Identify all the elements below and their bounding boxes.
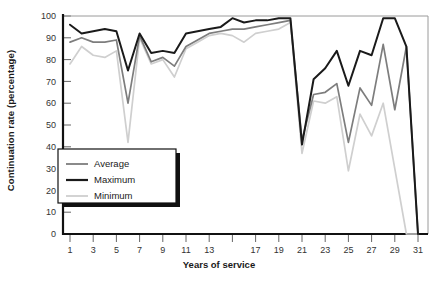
x-tick-label: 29 [390, 245, 400, 255]
x-tick-label: 1 [67, 245, 72, 255]
chart-figure: Continuation rate (percentage) 010203040… [0, 0, 438, 282]
x-tick-label: 13 [204, 245, 214, 255]
x-axis-title: Years of service [0, 259, 438, 270]
y-tick-label: 90 [46, 33, 56, 43]
y-tick-label: 60 [46, 98, 56, 108]
x-tick-label: 5 [114, 245, 119, 255]
y-tick-label: 40 [46, 142, 56, 152]
x-tick-label: 17 [251, 245, 261, 255]
x-tick-label: 25 [343, 245, 353, 255]
legend-label-average: Average [94, 158, 129, 169]
x-tick-label: 21 [297, 245, 307, 255]
y-tick-label: 30 [46, 164, 56, 174]
legend: AverageMaximumMinimum [58, 149, 180, 207]
x-tick-label: 31 [413, 245, 423, 255]
x-tick-label: 19 [274, 245, 284, 255]
y-tick-label: 50 [46, 120, 56, 130]
line-chart-plot: 0102030405060708090100 13579111317192123… [0, 0, 438, 282]
x-tick-label: 11 [181, 245, 190, 255]
legend-label-maximum: Maximum [94, 174, 135, 185]
y-tick-label: 80 [46, 55, 56, 65]
legend-label-minimum: Minimum [94, 190, 133, 201]
y-tick-label: 70 [46, 77, 56, 87]
x-tick-label: 9 [160, 245, 165, 255]
x-tick-label: 27 [367, 245, 377, 255]
x-tick-label: 3 [91, 245, 96, 255]
x-axis-ticks: 1357911131719212325272931 [67, 234, 423, 255]
y-tick-label: 10 [46, 207, 56, 217]
y-tick-label: 100 [41, 11, 56, 21]
x-tick-label: 7 [137, 245, 142, 255]
y-tick-label: 0 [51, 229, 56, 239]
y-tick-label: 20 [46, 186, 56, 196]
x-tick-label: 23 [320, 245, 330, 255]
